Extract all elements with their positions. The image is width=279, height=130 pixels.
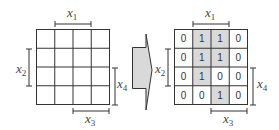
cell-value: 0 — [236, 52, 242, 63]
cell-value: 1 — [199, 33, 205, 44]
cell-value: 1 — [199, 52, 205, 63]
cell-value: 0 — [236, 71, 242, 82]
cell-value: 0 — [181, 90, 187, 101]
cell-value: 0 — [236, 90, 242, 101]
cell-value: 0 — [181, 52, 187, 63]
cell-value: 1 — [217, 52, 223, 63]
cell-value: 1 — [217, 90, 223, 101]
left-label-x4: x4 — [116, 76, 128, 93]
right-label-x1: x1 — [204, 5, 215, 22]
cell-value: 0 — [181, 33, 187, 44]
left-grid — [37, 30, 110, 105]
karnaugh-diagram: x1 x2 x3 x4 0110011001000010 x1 x2 x3 x4 — [0, 0, 279, 130]
cell-value: 0 — [236, 33, 242, 44]
left-label-x1: x1 — [66, 5, 77, 22]
right-label-x2: x2 — [154, 61, 165, 78]
transform-arrow-icon — [133, 34, 153, 110]
cell-value: 1 — [199, 71, 205, 82]
right-label-x4: x4 — [256, 76, 268, 93]
right-label-x3: x3 — [222, 111, 234, 128]
cell-value: 0 — [217, 71, 223, 82]
left-label-x2: x2 — [15, 61, 26, 78]
cell-value: 0 — [181, 71, 187, 82]
left-label-x3: x3 — [84, 111, 96, 128]
cell-value: 0 — [199, 90, 205, 101]
cell-value: 1 — [217, 33, 223, 44]
